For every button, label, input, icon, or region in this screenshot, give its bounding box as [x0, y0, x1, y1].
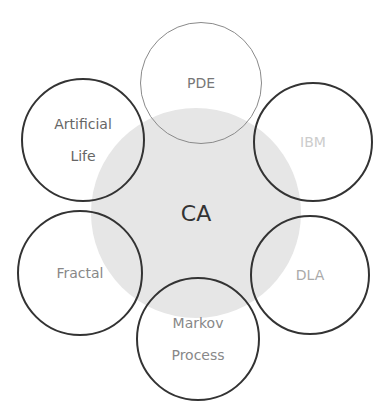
node-markov-process: Markov Process	[136, 277, 260, 401]
node-label-pde: PDE	[187, 67, 215, 99]
node-dla: DLA	[250, 215, 370, 335]
node-label-dla: DLA	[296, 259, 324, 291]
node-label-fractal: Fractal	[56, 257, 103, 289]
node-pde: PDE	[140, 22, 262, 144]
ca-center-label: CA	[181, 201, 211, 226]
node-artificial-life: Artificial Life	[21, 78, 145, 202]
node-fractal: Fractal	[17, 210, 143, 336]
node-ibm: IBM	[253, 82, 373, 202]
node-label-markov-process: Markov Process	[171, 307, 224, 371]
node-label-ibm: IBM	[300, 126, 326, 158]
node-label-artificial-life: Artificial Life	[54, 108, 112, 172]
